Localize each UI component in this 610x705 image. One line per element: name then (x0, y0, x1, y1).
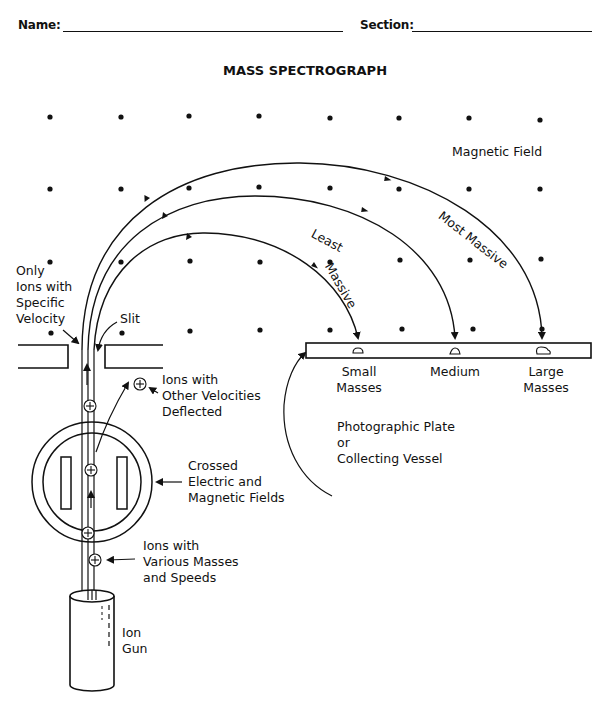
only-ions-label: Only Ions with Specific Velocity (16, 263, 72, 327)
slit-label: Slit (120, 311, 140, 326)
slit-plates (18, 345, 163, 368)
least-massive-path (94, 233, 358, 350)
electric-plate-left (61, 457, 71, 509)
selector-outer-ring (32, 422, 152, 542)
velocity-selector (32, 422, 152, 542)
deflected-pointer (150, 388, 158, 393)
medium-path (88, 196, 455, 350)
only-ions-pointer (63, 330, 78, 343)
photographic-plate-label: Photographic Plate or Collecting Vessel (337, 419, 455, 467)
slit-plate-right (105, 345, 163, 368)
ion-gun (70, 590, 114, 691)
various-masses-pointer (108, 559, 135, 560)
path-direction-arrows (143, 176, 391, 270)
deflected-ion (134, 378, 146, 390)
most-massive-path (82, 163, 542, 350)
magnetic-field-label: Magnetic Field (452, 144, 542, 159)
plate-pointer (284, 353, 332, 496)
small-masses-label: Small Masses (335, 364, 383, 396)
crossed-fields-label: Crossed Electric and Magnetic Fields (188, 458, 285, 506)
small-mass-deposit (353, 348, 363, 353)
various-masses-label: Ions with Various Masses and Speeds (143, 538, 239, 586)
slit-plate-left (18, 345, 68, 368)
spectrograph-diagram (0, 0, 610, 705)
other-velocities-label: Ions with Other Velocities Deflected (162, 372, 261, 420)
ion-gun-label: Ion Gun (122, 625, 148, 657)
electric-plate-right (117, 457, 127, 509)
medium-label: Medium (430, 364, 480, 379)
large-masses-label: Large Masses (522, 364, 570, 396)
ion-trajectories (82, 163, 542, 350)
worksheet-page: Name: Section: MASS SPECTROGRAPH (0, 0, 610, 705)
deflected-ion-path (96, 383, 128, 452)
